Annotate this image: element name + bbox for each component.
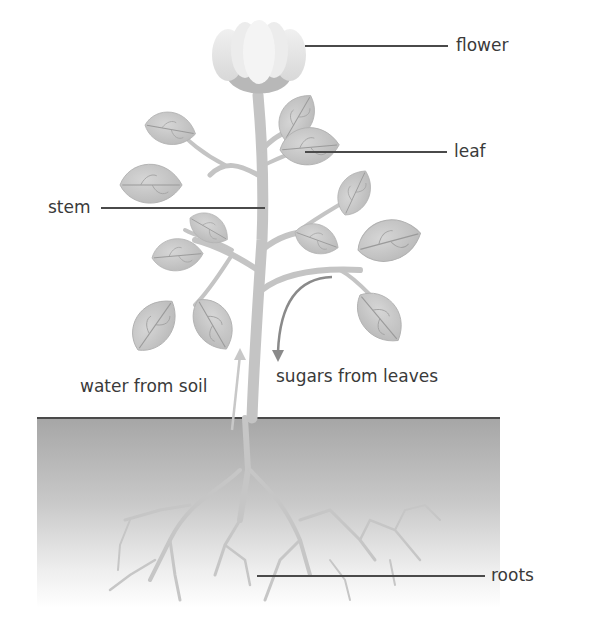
water-from-soil-label: water from soil: [80, 378, 208, 395]
flower-leader-line: [305, 45, 448, 47]
roots-label: roots: [491, 567, 534, 584]
stem-label: stem: [48, 199, 91, 216]
sugar-arrow: [272, 277, 332, 362]
stem-leader-line: [101, 207, 265, 209]
plant-illustration: [0, 0, 611, 641]
soil: [37, 418, 500, 608]
flower-label: flower: [456, 37, 508, 54]
leaf-leader-line: [305, 151, 447, 153]
sugars-from-leaves-label: sugars from leaves: [276, 368, 438, 385]
plant-diagram: flower leaf stem water from soil sugars …: [0, 0, 611, 641]
roots-leader-line: [257, 575, 485, 577]
flower-illustration: [212, 20, 306, 94]
leaf-label: leaf: [454, 143, 486, 160]
leaves: [120, 87, 425, 360]
